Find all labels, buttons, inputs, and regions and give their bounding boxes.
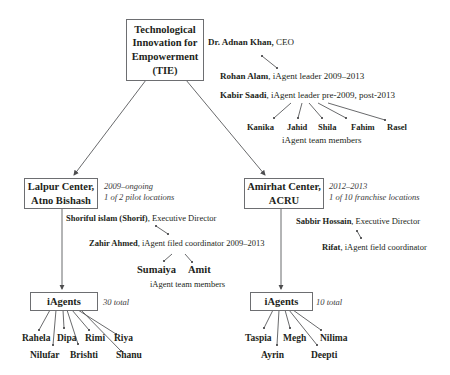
lalpur-iagents-box: iAgents bbox=[30, 292, 98, 311]
amirhat-line-1: Amirhat Center, bbox=[247, 180, 321, 194]
amirhat-coordinator-name: Rifat bbox=[322, 242, 340, 252]
lalpur-team-member: Sumaiya bbox=[137, 264, 176, 275]
lalpur-meta: 2009–ongoing 1 of 2 pilot locations bbox=[104, 181, 174, 203]
lalpur-iagent: Shanu bbox=[116, 350, 142, 360]
tie-box: Technological Innovation for Empowerment… bbox=[126, 19, 204, 81]
amirhat-period: 2012–2013 bbox=[329, 181, 420, 192]
lalpur-director: Shoriful islam (Shorif), Executive Direc… bbox=[66, 213, 216, 223]
team-member: Shila bbox=[318, 122, 336, 132]
leader1-name: Rohan Alam bbox=[220, 71, 268, 81]
amirhat-director: Sabbir Hossain, Executive Director bbox=[296, 216, 420, 226]
lalpur-iagents-total: 30 total bbox=[103, 297, 129, 308]
lalpur-center-box: Lalpur Center, Atno Bishash bbox=[24, 178, 98, 209]
lalpur-iagent: Rimi bbox=[85, 333, 105, 343]
lalpur-director-name: Shoriful islam (Shorif) bbox=[66, 213, 148, 223]
amirhat-line-2: ACRU bbox=[247, 194, 321, 208]
lalpur-iagent: Riya bbox=[114, 333, 133, 343]
amirhat-coordinator: Rifat, iAgent field coordinator bbox=[322, 242, 427, 252]
leader1-label: Rohan Alam, iAgent leader 2009–2013 bbox=[220, 71, 364, 81]
lalpur-iagents-label: iAgents bbox=[47, 295, 81, 309]
amirhat-director-name: Sabbir Hossain bbox=[296, 216, 351, 226]
tie-line-3: Empowerment bbox=[132, 50, 199, 64]
lalpur-team-label: iAgent team members bbox=[150, 279, 225, 289]
lalpur-iagent: Rahela bbox=[22, 333, 51, 343]
leader1-role: , iAgent leader 2009–2013 bbox=[268, 71, 364, 81]
ceo-name: Dr. Adnan Khan, bbox=[208, 37, 274, 47]
lalpur-line-1: Lalpur Center, bbox=[28, 180, 95, 194]
amirhat-note: 1 of 10 franchise locations bbox=[329, 192, 420, 203]
lalpur-coordinator: Zahir Ahmed, iAgent filed coordinator 20… bbox=[89, 238, 265, 248]
lalpur-director-role: , Executive Director bbox=[148, 213, 217, 223]
leader2-role: , iAgent leader pre-2009, post-2013 bbox=[267, 90, 395, 100]
amirhat-iagent: Ayrin bbox=[261, 350, 284, 360]
amirhat-iagent: Taspia bbox=[245, 333, 272, 343]
amirhat-iagent: Deepti bbox=[311, 350, 337, 360]
amirhat-iagents-box: iAgents bbox=[250, 292, 313, 311]
team-member: Fahim bbox=[351, 122, 375, 132]
lalpur-line-2: Atno Bishash bbox=[28, 194, 95, 208]
lalpur-coordinator-name: Zahir Ahmed bbox=[89, 238, 138, 248]
amirhat-iagents-label: iAgents bbox=[265, 295, 299, 309]
lalpur-note: 1 of 2 pilot locations bbox=[104, 192, 174, 203]
leader2-label: Kabir Saadi, iAgent leader pre-2009, pos… bbox=[220, 90, 395, 100]
lalpur-coordinator-role: , iAgent filed coordinator 2009–2013 bbox=[138, 238, 265, 248]
amirhat-meta: 2012–2013 1 of 10 franchise locations bbox=[329, 181, 420, 203]
tie-line-2: Innovation for bbox=[132, 36, 199, 50]
leader2-name: Kabir Saadi bbox=[220, 90, 267, 100]
tie-line-1: Technological bbox=[132, 23, 199, 37]
amirhat-director-role: , Executive Director bbox=[351, 216, 420, 226]
team-member: Rasel bbox=[387, 122, 407, 132]
team-member: Jahid bbox=[287, 122, 307, 132]
lalpur-iagent: Brishti bbox=[70, 350, 98, 360]
amirhat-iagent: Megh bbox=[283, 333, 306, 343]
ceo-role: CEO bbox=[274, 37, 294, 47]
amirhat-center-box: Amirhat Center, ACRU bbox=[244, 178, 324, 209]
amirhat-coordinator-role: , iAgent field coordinator bbox=[340, 242, 426, 252]
team-member: Kanika bbox=[247, 122, 274, 132]
amirhat-iagent: Nilima bbox=[320, 333, 347, 343]
lalpur-team-member: Amit bbox=[188, 264, 211, 275]
ceo-label: Dr. Adnan Khan, CEO bbox=[208, 37, 294, 47]
tie-team-label: iAgent team members bbox=[282, 135, 361, 145]
lalpur-iagent: Dipa bbox=[57, 333, 77, 343]
lalpur-iagent: Nilufar bbox=[30, 350, 60, 360]
amirhat-iagents-total: 10 total bbox=[316, 297, 342, 308]
lalpur-period: 2009–ongoing bbox=[104, 181, 174, 192]
tie-line-4: (TIE) bbox=[132, 64, 199, 78]
